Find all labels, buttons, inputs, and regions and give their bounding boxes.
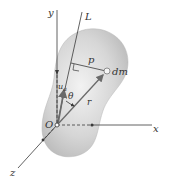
- diagram-canvas: y L x z p dm r ua θ O: [0, 0, 169, 185]
- mass-element-icon: [104, 68, 110, 74]
- angle-label: θ: [68, 91, 74, 101]
- perp-distance-label: p: [88, 54, 95, 65]
- y-axis-label: y: [47, 7, 54, 18]
- rigid-body: [42, 29, 128, 157]
- position-vector-label: r: [87, 97, 92, 107]
- L-axis-label: L: [84, 11, 92, 22]
- x-axis-label: x: [153, 123, 159, 134]
- z-axis-marker-icon: [42, 139, 45, 142]
- x-axis-marker-icon: [90, 123, 93, 126]
- origin-point-icon: [55, 123, 59, 127]
- origin-label: O: [45, 119, 53, 130]
- z-axis-label: z: [9, 167, 16, 178]
- mass-element-label: dm: [112, 66, 128, 77]
